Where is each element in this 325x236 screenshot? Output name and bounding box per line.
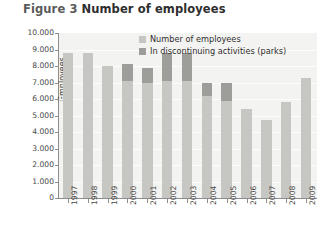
gridline xyxy=(59,182,317,183)
x-axis-tick-label: 2006 xyxy=(250,186,258,205)
x-axis-tick-label: 1997 xyxy=(71,186,79,205)
gridline xyxy=(59,66,317,67)
legend-item-label: Number of employees xyxy=(150,35,241,43)
y-axis-tick-label: 6.000 xyxy=(32,95,54,103)
y-axis-tick-label: 7.000 xyxy=(32,79,54,87)
x-axis-tick-label: 2008 xyxy=(289,186,297,205)
x-axis-tick xyxy=(306,199,307,203)
y-axis-tick xyxy=(55,198,59,199)
figure-container: Figure 3Number of employees Employees 19… xyxy=(0,0,325,236)
x-axis-tick-label: 2001 xyxy=(150,186,158,205)
y-axis-tick xyxy=(55,165,59,166)
x-axis-tick xyxy=(207,199,208,203)
x-axis-tick-label: 2007 xyxy=(269,186,277,205)
y-axis-tick-label: 2.000 xyxy=(32,161,54,169)
y-axis-tick xyxy=(55,99,59,100)
x-axis-tick xyxy=(88,199,89,203)
x-axis-tick xyxy=(247,199,248,203)
y-axis-tick-label: 3.000 xyxy=(32,145,54,153)
chart-legend: Number of employeesIn discontinuing acti… xyxy=(139,34,286,58)
y-axis-tick xyxy=(55,182,59,183)
x-axis-tick xyxy=(227,199,228,203)
x-axis-tick xyxy=(108,199,109,203)
y-axis-tick xyxy=(55,66,59,67)
x-axis-tick-label: 2003 xyxy=(190,186,198,205)
y-axis-tick-label: 1.000 xyxy=(32,178,54,186)
x-axis-tick xyxy=(167,199,168,203)
x-axis-tick-label: 2002 xyxy=(170,186,178,205)
legend-item: Number of employees xyxy=(139,34,286,45)
figure-title: Figure 3Number of employees xyxy=(23,2,226,16)
y-axis-tick-label: 9.000 xyxy=(32,46,54,54)
gridline xyxy=(59,165,317,166)
figure-title-text: Number of employees xyxy=(82,2,226,16)
figure-number: Figure 3 xyxy=(23,2,78,16)
legend-item: In discontinuing activities (parks) xyxy=(139,46,286,57)
y-axis-tick-label: 4.000 xyxy=(32,128,54,136)
x-axis-tick-label: 1999 xyxy=(111,186,119,205)
legend-swatch-icon xyxy=(139,36,146,43)
y-axis-tick xyxy=(55,33,59,34)
legend-item-label: In discontinuing activities (parks) xyxy=(150,47,286,55)
x-axis-tick-label: 2000 xyxy=(130,186,138,205)
gridline xyxy=(59,116,317,117)
x-axis-tick xyxy=(187,199,188,203)
y-axis-tick-label: 5.000 xyxy=(32,112,54,120)
gridline xyxy=(59,132,317,133)
x-axis-tick-label: 2005 xyxy=(230,186,238,205)
y-axis-tick-label: 10.000 xyxy=(27,29,54,37)
legend-swatch-icon xyxy=(139,48,146,55)
y-axis-tick-label: 8.000 xyxy=(32,62,54,70)
y-axis-title: Employees xyxy=(58,57,67,101)
x-axis-tick-label: 2004 xyxy=(210,186,218,205)
y-axis-tick xyxy=(55,116,59,117)
y-axis-tick xyxy=(55,132,59,133)
gridline xyxy=(59,83,317,84)
y-axis-tick xyxy=(55,149,59,150)
y-axis-tick-label: 0 xyxy=(49,194,54,202)
x-axis-tick-label: 1998 xyxy=(91,186,99,205)
y-axis-tick xyxy=(55,50,59,51)
gridline xyxy=(59,149,317,150)
gridline xyxy=(59,99,317,100)
y-axis-tick xyxy=(55,83,59,84)
x-axis-tick xyxy=(68,199,69,203)
x-axis-tick-label: 2009 xyxy=(309,186,317,205)
